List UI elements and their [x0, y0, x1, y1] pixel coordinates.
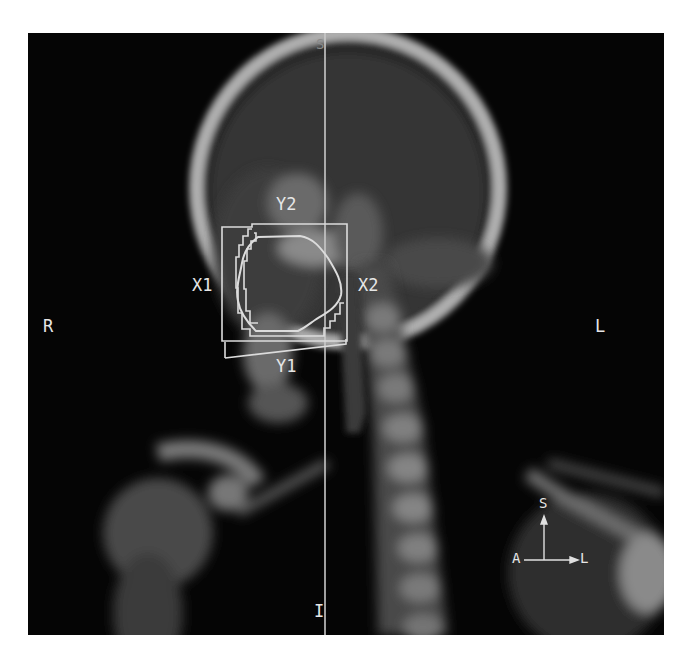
orientation-label-superior: S	[316, 37, 324, 51]
marker-label-superior: S	[539, 496, 547, 510]
orientation-label-right: R	[43, 318, 53, 335]
orientation-label-left: L	[595, 318, 605, 335]
jaw-label-x2: X2	[358, 277, 378, 294]
orientation-label-inferior: I	[314, 603, 324, 620]
jaw-label-y1: Y1	[276, 358, 296, 375]
jaw-label-y2: Y2	[276, 196, 296, 213]
marker-label-left: L	[580, 551, 588, 565]
orientation-axes-icon	[510, 490, 590, 565]
jaw-label-x1: X1	[192, 277, 212, 294]
radiograph-viewport[interactable]: S I R L X1 X2 Y1 Y2 S A L	[28, 33, 664, 635]
marker-label-anterior: A	[512, 551, 520, 565]
orientation-marker: S A L	[510, 490, 590, 565]
